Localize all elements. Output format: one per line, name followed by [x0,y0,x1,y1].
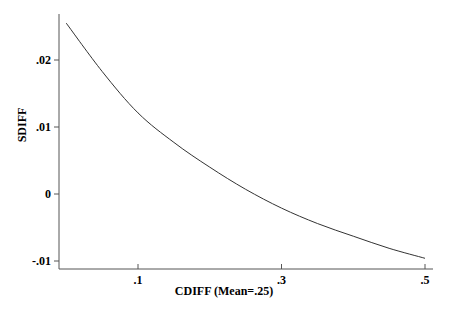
x-tick-label: .5 [421,273,430,287]
sdiff-curve [66,23,425,258]
line-chart: .02.010-.01 .1.3.5 SDIFF CDIFF (Mean=.25… [0,0,451,314]
x-tick-label: .3 [277,273,286,287]
y-tick-label: .01 [36,120,51,134]
plot-area: .02.010-.01 .1.3.5 [32,14,433,287]
y-tick-label: 0 [45,187,51,201]
y-tick-label: .02 [36,53,51,67]
x-tick-label: .1 [134,273,143,287]
y-axis-ticks: .02.010-.01 [32,53,59,268]
y-axis-title: SDIFF [15,108,29,143]
y-tick-label: -.01 [32,254,51,268]
x-axis-title: CDIFF (Mean=.25) [175,284,273,298]
